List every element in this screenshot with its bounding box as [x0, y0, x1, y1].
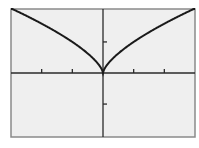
graph-screen	[0, 0, 199, 148]
